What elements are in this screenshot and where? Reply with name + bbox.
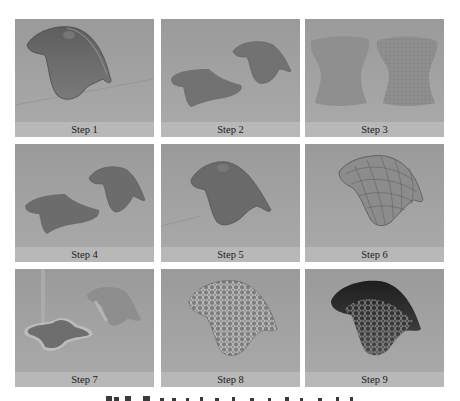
curved-surface-shape <box>15 19 154 122</box>
render-hexagonal-mesh <box>161 269 300 372</box>
unfolded-pattern-shapes <box>305 19 444 122</box>
flattened-halo-shape <box>15 269 154 372</box>
panel-step-7: Step 7 <box>15 269 154 387</box>
panel-label: Step 2 <box>161 122 300 137</box>
panel-step-9: Step 9 <box>305 269 444 387</box>
panel-label: Step 6 <box>305 247 444 262</box>
wireframe-surface-shape <box>305 144 444 247</box>
render-unfolded-patterns <box>305 19 444 122</box>
panel-step-6: Step 6 <box>305 144 444 262</box>
render-wireframe-surface <box>305 144 444 247</box>
figure-grid: Step 1 Step 2 Step 3 <box>0 0 460 401</box>
panel-step-8: Step 8 <box>161 269 300 387</box>
panel-step-5: Step 5 <box>161 144 300 262</box>
render-curved-surface <box>15 19 154 122</box>
panel-label: Step 7 <box>15 372 154 387</box>
panel-label: Step 3 <box>305 122 444 137</box>
render-flat-and-curved <box>161 19 300 122</box>
panel-step-2: Step 2 <box>161 19 300 137</box>
flattened-pieces-shape <box>15 144 154 247</box>
panel-step-3: Step 3 <box>305 19 444 137</box>
final-hex-surface-shape <box>305 269 444 372</box>
panel-step-4: Step 4 <box>15 144 154 262</box>
panel-label: Step 5 <box>161 247 300 262</box>
panel-label: Step 9 <box>305 372 444 387</box>
render-curved-surface <box>161 144 300 247</box>
render-flat-and-curved <box>15 144 154 247</box>
figure-caption <box>0 394 460 401</box>
render-final-hex-surface <box>305 269 444 372</box>
render-flat-with-halo <box>15 269 154 372</box>
curved-surface-shape <box>161 144 300 247</box>
hexagonal-mesh-shape <box>161 269 300 372</box>
panel-step-1: Step 1 <box>15 19 154 137</box>
caption-glyph-tops <box>0 394 460 401</box>
panel-label: Step 1 <box>15 122 154 137</box>
flattened-pieces-shape <box>161 19 300 122</box>
panel-label: Step 8 <box>161 372 300 387</box>
panel-label: Step 4 <box>15 247 154 262</box>
